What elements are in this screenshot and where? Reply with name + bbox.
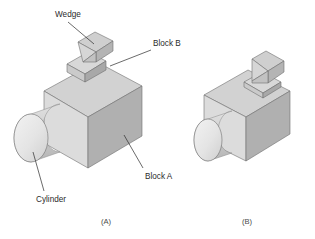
caption-a: (A) xyxy=(101,217,112,226)
cylinder-end-face xyxy=(14,114,48,162)
label-block-b: Block B xyxy=(153,39,181,48)
assembly-diagram-canvas: Wedge Block B Block A Cylinder (A) xyxy=(0,0,315,239)
label-block-a: Block A xyxy=(145,172,173,181)
cylinder-end-face-assembled xyxy=(194,119,222,161)
view-assembled: (B) xyxy=(194,51,290,226)
label-wedge: Wedge xyxy=(55,10,81,19)
view-exploded: Wedge Block B Block A Cylinder (A) xyxy=(14,10,181,226)
part-wedge xyxy=(78,32,113,62)
label-cylinder: Cylinder xyxy=(36,195,66,204)
caption-b: (B) xyxy=(242,217,253,226)
leader-line-block-b xyxy=(110,50,151,66)
part-wedge-assembled xyxy=(252,51,284,83)
figure-page: Wedge Block B Block A Cylinder (A) xyxy=(0,0,315,239)
